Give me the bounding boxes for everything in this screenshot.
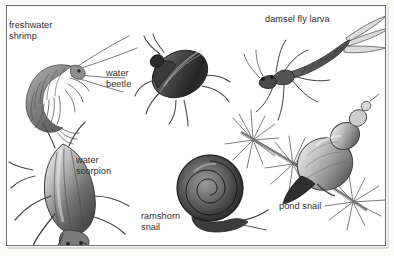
- label-ramshorn-snail: ramshorn snail: [141, 211, 180, 234]
- ramshorn-snail-drawing: [177, 155, 268, 232]
- illustration-frame: freshwater shrimp water beetle damsel fl…: [6, 5, 386, 246]
- frame-shadow-right: [387, 7, 389, 248]
- label-damsel-fly-larva: damsel fly larva: [265, 14, 330, 25]
- label-pond-snail: pond snail: [279, 201, 321, 212]
- label-water-beetle: water beetle: [106, 68, 131, 91]
- water-scorpion-drawing: [9, 122, 129, 246]
- illustration-plate: freshwater shrimp water beetle damsel fl…: [0, 0, 394, 256]
- pond-life-drawing-canvas: [7, 6, 386, 246]
- frame-shadow-bottom: [8, 247, 388, 249]
- label-freshwater-shrimp: freshwater shrimp: [9, 20, 52, 43]
- label-water-scorpion: water scorpion: [76, 155, 111, 178]
- water-beetle-drawing: [135, 34, 230, 126]
